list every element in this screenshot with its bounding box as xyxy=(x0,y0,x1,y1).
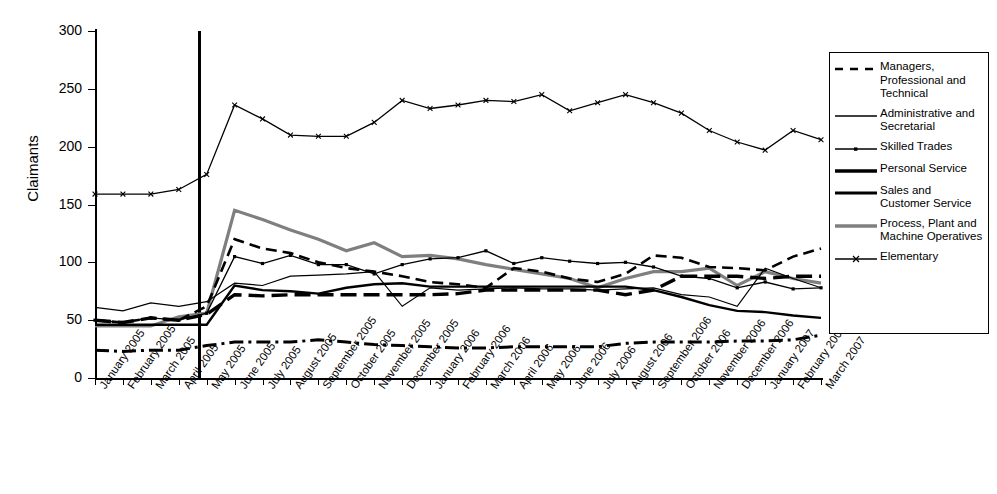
series-marker xyxy=(316,134,321,139)
legend-item-label: Sales and Customer Service xyxy=(878,184,984,211)
series-marker xyxy=(791,128,796,133)
series-marker xyxy=(456,103,461,108)
series-marker xyxy=(679,111,684,116)
legend-item[interactable]: Process, Plant and Machine Operatives xyxy=(834,217,984,244)
x-tick-mark xyxy=(235,378,236,385)
series-marker xyxy=(484,249,487,252)
series-marker xyxy=(540,256,543,259)
x-tick-mark xyxy=(151,378,152,385)
legend: Managers, Professional and TechnicalAdmi… xyxy=(829,52,989,334)
series-marker xyxy=(819,286,822,289)
solid-thin-line-key xyxy=(834,109,878,123)
x-tick-mark xyxy=(179,378,180,385)
series-marker xyxy=(289,254,292,257)
legend-item-label: Skilled Trades xyxy=(878,140,952,154)
y-tick-mark xyxy=(88,205,95,206)
y-tick-label: 50 xyxy=(36,312,82,326)
series-marker xyxy=(567,108,572,113)
series-marker xyxy=(373,272,376,275)
x-tick-mark xyxy=(486,378,487,385)
x-tick-mark xyxy=(514,378,515,385)
legend-item[interactable]: Personal Service xyxy=(834,162,984,178)
series-marker xyxy=(512,262,515,265)
x-tick-mark xyxy=(263,378,264,385)
x-tick-mark xyxy=(207,378,208,385)
series-marker xyxy=(707,128,712,133)
series-line xyxy=(95,210,821,326)
series-marker xyxy=(317,263,320,266)
legend-item[interactable]: Sales and Customer Service xyxy=(834,184,984,211)
series-line xyxy=(95,95,821,195)
solid-x-line-key xyxy=(834,252,878,266)
solid-thick-line-key xyxy=(834,186,878,200)
x-tick-mark xyxy=(430,378,431,385)
series-marker xyxy=(204,172,209,177)
series-marker xyxy=(539,92,544,97)
series-marker xyxy=(764,280,767,283)
series-marker xyxy=(819,137,824,142)
series-marker xyxy=(763,148,768,153)
y-tick-mark xyxy=(88,89,95,90)
legend-item[interactable]: Skilled Trades xyxy=(834,140,984,156)
series-marker xyxy=(148,192,153,197)
series-marker xyxy=(205,312,208,315)
x-tick-mark xyxy=(821,378,822,385)
series-marker xyxy=(428,106,433,111)
series-marker xyxy=(708,277,711,280)
series-marker xyxy=(121,192,126,197)
series-line xyxy=(95,283,821,325)
series-marker xyxy=(735,140,740,145)
x-tick-mark xyxy=(793,378,794,385)
series-line xyxy=(95,251,821,323)
y-tick-label: 150 xyxy=(36,197,82,211)
legend-item[interactable]: Administrative and Secretarial xyxy=(834,107,984,134)
y-tick-label: 100 xyxy=(36,254,82,268)
event-vertical-line xyxy=(198,31,201,378)
dashed-thick-line-key xyxy=(834,164,878,178)
x-tick-mark xyxy=(123,378,124,385)
series-marker xyxy=(401,263,404,266)
series-marker xyxy=(511,99,516,104)
x-tick-mark xyxy=(598,378,599,385)
y-tick-mark xyxy=(88,262,95,263)
series-marker xyxy=(624,261,627,264)
series-line xyxy=(95,276,821,322)
series-marker xyxy=(345,263,348,266)
series-marker xyxy=(456,256,459,259)
series-marker xyxy=(568,260,571,263)
y-tick-mark xyxy=(88,147,95,148)
series-marker xyxy=(372,120,377,125)
series-marker xyxy=(233,255,236,258)
legend-item[interactable]: Elementary xyxy=(834,250,984,266)
series-marker xyxy=(261,262,264,265)
series-marker xyxy=(736,286,739,289)
y-axis-title: Claimants xyxy=(24,89,41,249)
x-tick-mark xyxy=(542,378,543,385)
series-marker xyxy=(344,134,349,139)
series-marker xyxy=(484,98,489,103)
series-line xyxy=(95,239,821,322)
series-marker xyxy=(400,98,405,103)
solid-dot-line-key xyxy=(834,142,878,156)
legend-item-label: Personal Service xyxy=(878,162,967,176)
series-marker xyxy=(121,321,124,324)
series-line xyxy=(95,268,821,311)
series-marker xyxy=(260,117,265,122)
series-marker xyxy=(623,92,628,97)
y-tick-mark xyxy=(88,320,95,321)
x-tick-mark xyxy=(95,378,96,385)
y-tick-label: 200 xyxy=(36,139,82,153)
series-marker xyxy=(651,100,656,105)
legend-item[interactable]: Managers, Professional and Technical xyxy=(834,60,984,101)
y-tick-label: 300 xyxy=(36,23,82,37)
series-marker xyxy=(177,319,180,322)
series-marker xyxy=(288,133,293,138)
y-tick-label: 0 xyxy=(36,370,82,384)
series-marker xyxy=(652,265,655,268)
solid-gray-line-key xyxy=(834,219,878,233)
legend-item-label: Elementary xyxy=(878,250,938,264)
legend-item-label: Process, Plant and Machine Operatives xyxy=(878,217,984,244)
dashed-line-key xyxy=(834,62,878,76)
y-axis-line xyxy=(95,29,97,380)
x-tick-mark xyxy=(458,378,459,385)
